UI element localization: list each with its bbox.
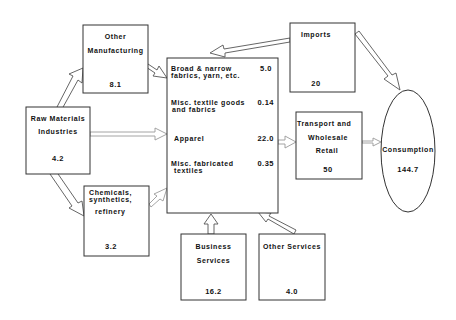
- arrow-raw-to-other-manufacturing: [57, 68, 83, 109]
- node-consumption: Consumption 144.7: [381, 90, 435, 212]
- item-label: and fabrics: [172, 106, 216, 113]
- node-label: refinery: [95, 208, 125, 216]
- node-value: 8.1: [110, 80, 122, 89]
- arrow-other-manufacturing-to-textiles: [146, 64, 167, 78]
- arrow-textiles-to-transport: [278, 136, 296, 148]
- item-label: fabrics, yarn, etc.: [171, 72, 240, 80]
- node-transport-wholesale-retail: Transport and Wholesale Retail 50: [296, 112, 362, 179]
- node-label: Consumption: [382, 146, 434, 154]
- arrow-imports-to-textiles: [210, 38, 290, 57]
- item-value: 22.0: [257, 134, 274, 143]
- node-business-services: Business Services 16.2: [181, 234, 246, 300]
- node-label: Manufacturing: [87, 47, 143, 55]
- item-value: 0.14: [257, 98, 274, 107]
- node-value: 16.2: [205, 287, 222, 296]
- node-other-manufacturing: Other Manufacturing 8.1: [83, 25, 148, 93]
- arrow-raw-to-textiles: [90, 128, 167, 140]
- node-other-services: Other Services 4.0: [259, 234, 325, 300]
- item-value: 5.0: [260, 64, 272, 73]
- item-value: 0.35: [257, 159, 274, 168]
- item-label: Broad & narrow: [171, 65, 232, 72]
- node-raw-materials-industries: Raw Materials Industries 4.2: [26, 107, 90, 174]
- node-label: Transport and: [297, 120, 351, 128]
- node-label: synthetics,: [89, 196, 132, 204]
- node-label: Raw Materials: [31, 115, 86, 122]
- node-label: Other: [105, 33, 127, 40]
- node-value: 20: [311, 79, 320, 88]
- node-value: 4.0: [286, 287, 298, 296]
- textile-flow-diagram: Other Manufacturing 8.1 Raw Materials In…: [0, 0, 456, 320]
- node-label: Industries: [38, 128, 77, 135]
- item-label: Misc. fabricated: [171, 160, 234, 167]
- node-label: Retail: [316, 147, 339, 154]
- arrow-business-services-to-textiles: [204, 214, 218, 234]
- node-value: 144.7: [397, 165, 418, 174]
- arrow-raw-to-chemicals: [50, 171, 84, 216]
- item-label: Apparel: [174, 135, 204, 143]
- arrow-chemicals-to-textiles: [149, 188, 167, 207]
- node-label: Services: [197, 257, 231, 264]
- node-textiles: Broad & narrow fabrics, yarn, etc. 5.0 M…: [167, 58, 278, 213]
- node-imports: Imports 20: [290, 23, 355, 92]
- arrow-transport-to-consumption: [362, 138, 381, 146]
- node-value: 3.2: [105, 242, 117, 251]
- node-chemicals-synthetics-refinery: Chemicals, synthetics, refinery 3.2: [84, 186, 149, 256]
- node-label: Business: [196, 243, 232, 250]
- node-value: 50: [323, 165, 332, 174]
- node-label: Wholesale: [308, 134, 348, 141]
- arrow-other-services-to-textiles: [258, 212, 296, 234]
- node-label: Other Services: [263, 243, 321, 250]
- node-label: Imports: [301, 31, 331, 39]
- arrow-imports-to-consumption: [355, 31, 400, 90]
- node-value: 4.2: [52, 154, 64, 163]
- item-label: textiles: [174, 167, 203, 174]
